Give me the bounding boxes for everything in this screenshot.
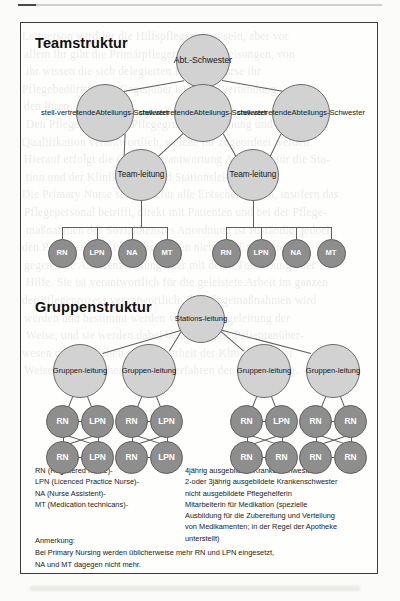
node-label-line: LPN xyxy=(158,453,175,462)
node-label-line: MT xyxy=(162,249,173,257)
node-staff-na-team1[interactable]: NA xyxy=(118,239,147,268)
node-label-line: vertretende xyxy=(253,109,291,117)
node-label-line: RN xyxy=(275,453,287,462)
connector-teamlead-stem xyxy=(141,201,142,227)
node-label-line: LPN xyxy=(253,249,268,257)
node-label-line: leitung xyxy=(269,367,291,375)
node-teamleitung-2[interactable]: Team-leitung xyxy=(227,149,279,201)
legend-abbreviations: RN (Registered Nurse)-LPN (Licenced Prac… xyxy=(35,465,185,544)
note-line: Bei Primary Nursing werden üblicherweise… xyxy=(35,547,367,558)
node-group1-member-3-rn[interactable]: RN xyxy=(46,441,79,474)
legend-definition-line: Ausbildung für die Zubereitung und Verte… xyxy=(185,510,367,521)
connector-staff-drop xyxy=(296,227,297,239)
node-gruppenleitung-2[interactable]: Gruppen-leitung xyxy=(122,344,176,398)
node-label-line: leitung xyxy=(154,367,176,375)
node-group2-member-2-lpn[interactable]: LPN xyxy=(150,405,183,438)
node-group1-member-1-rn[interactable]: RN xyxy=(46,405,79,438)
node-label-line: Abteilungs- xyxy=(96,109,134,117)
organigram-figure: Teamstruktur Gruppenstruktur Abt.-Schwes… xyxy=(20,22,378,574)
node-label-line: Abt.- xyxy=(174,56,192,65)
node-label-line: RN xyxy=(240,453,252,462)
node-stellvertretende-abteilungsschwester-2[interactable]: stell-vertretendeAbteilungs-Schwester xyxy=(174,84,232,142)
node-label-line: Gruppen- xyxy=(53,367,85,375)
node-stellvertretende-abteilungsschwester-1[interactable]: stell-vertretendeAbteilungs-Schwester xyxy=(76,84,134,142)
node-group1-member-4-lpn[interactable]: LPN xyxy=(81,441,114,474)
node-staff-lpn-team1[interactable]: LPN xyxy=(83,239,112,268)
node-label-line: Gruppen- xyxy=(306,367,338,375)
node-label-line: RN xyxy=(56,417,68,426)
node-staff-lpn-team2[interactable]: LPN xyxy=(247,239,276,268)
node-group2-member-3-rn[interactable]: RN xyxy=(115,441,148,474)
legend-definition-line: nicht ausgebildete Pflegehelferin xyxy=(185,488,367,499)
node-gruppenleitung-1[interactable]: Gruppen-leitung xyxy=(53,344,107,398)
connector-staff-drop xyxy=(167,227,168,239)
node-group4-member-2-rn[interactable]: RN xyxy=(334,405,367,438)
connector-staff-bus xyxy=(62,227,167,228)
node-label-line: Schwester xyxy=(192,56,232,65)
note-body: Bei Primary Nursing werden üblicherweise… xyxy=(35,547,367,570)
connector-root-to-deputy-1 xyxy=(122,80,184,92)
node-label-line: Gruppen- xyxy=(237,367,269,375)
node-gruppenleitung-4[interactable]: Gruppen-leitung xyxy=(306,344,360,398)
node-gruppenleitung-3[interactable]: Gruppen-leitung xyxy=(237,344,291,398)
node-label-line: RN xyxy=(221,249,232,257)
node-label-line: leitung xyxy=(252,171,276,180)
node-label-line: LPN xyxy=(273,417,290,426)
node-staff-mt-team2[interactable]: MT xyxy=(317,239,346,268)
connector-deputy-to-teamlead-4 xyxy=(269,133,281,157)
connector-staff-drop xyxy=(97,227,98,239)
node-label-line: Team- xyxy=(230,171,253,180)
node-group3-member-3-rn[interactable]: RN xyxy=(230,441,263,474)
note-heading: Anmerkung: xyxy=(35,535,367,546)
node-group2-member-4-lpn[interactable]: LPN xyxy=(150,441,183,474)
connector-staff-drop xyxy=(62,227,63,239)
node-label-line: leitung xyxy=(140,171,164,180)
node-group4-member-4-rn[interactable]: RN xyxy=(334,441,367,474)
page-bottom-smudge xyxy=(30,586,360,591)
node-group3-member-1-rn[interactable]: RN xyxy=(230,405,263,438)
note-block: Anmerkung: Bei Primary Nursing werden üb… xyxy=(35,535,367,570)
node-label-line: RN xyxy=(56,453,68,462)
node-label-line: RN xyxy=(240,417,252,426)
node-label-line: leitung xyxy=(338,367,360,375)
node-group3-member-4-rn[interactable]: RN xyxy=(265,441,298,474)
node-group4-member-3-rn[interactable]: RN xyxy=(299,441,332,474)
node-label-line: leitung xyxy=(85,367,107,375)
node-label-line: Abteilungs- xyxy=(194,109,232,117)
node-label-line: Abteilungs- xyxy=(292,109,330,117)
node-stationsleitung[interactable]: Stations-leitung xyxy=(177,295,225,343)
node-stellvertretende-abteilungsschwester-3[interactable]: stell-vertretendeAbteilungs-Schwester xyxy=(272,84,330,142)
legend-abbreviation-line: NA (Nurse Assistent)- xyxy=(35,488,185,499)
node-label-line: stell- xyxy=(139,109,155,117)
node-staff-na-team2[interactable]: NA xyxy=(282,239,311,268)
node-label-line: Gruppen- xyxy=(122,367,154,375)
connector-root-to-deputy-3 xyxy=(222,80,284,92)
legend-definition-line: von Medikamenten; in der Regel der Apoth… xyxy=(185,521,367,532)
legend-abbreviation-line: MT (Medication technicans)- xyxy=(35,499,185,510)
page-top-rule xyxy=(18,4,382,6)
node-group4-member-1-rn[interactable]: RN xyxy=(299,405,332,438)
node-label-line: RN xyxy=(57,249,68,257)
node-staff-rn-team2[interactable]: RN xyxy=(212,239,241,268)
node-label-line: vertretende xyxy=(155,109,193,117)
connector-deputy-to-teamlead-3 xyxy=(222,133,236,157)
connector-staff-drop xyxy=(261,227,262,239)
legend: RN (Registered Nurse)-LPN (Licenced Prac… xyxy=(35,465,367,544)
node-label-line: RN xyxy=(309,417,321,426)
node-abteilungsschwester[interactable]: Abt.-Schwester xyxy=(176,34,230,88)
gruppenstruktur-heading: Gruppenstruktur xyxy=(35,299,152,315)
node-staff-mt-team1[interactable]: MT xyxy=(153,239,182,268)
node-label-line: LPN xyxy=(158,417,175,426)
node-group1-member-2-lpn[interactable]: LPN xyxy=(81,405,114,438)
connector-teamlead-stem xyxy=(253,201,254,227)
node-label-line: Team- xyxy=(118,171,141,180)
legend-definitions: 4jährig ausgebildete Krankenschwester2-o… xyxy=(185,465,367,544)
node-group2-member-1-rn[interactable]: RN xyxy=(115,405,148,438)
node-staff-rn-team1[interactable]: RN xyxy=(48,239,77,268)
node-group3-member-2-lpn[interactable]: LPN xyxy=(265,405,298,438)
node-label-line: NA xyxy=(291,249,302,257)
connector-staff-bus xyxy=(226,227,331,228)
node-label-line: RN xyxy=(344,453,356,462)
teamstruktur-heading: Teamstruktur xyxy=(35,35,128,51)
node-teamleitung-1[interactable]: Team-leitung xyxy=(115,149,167,201)
